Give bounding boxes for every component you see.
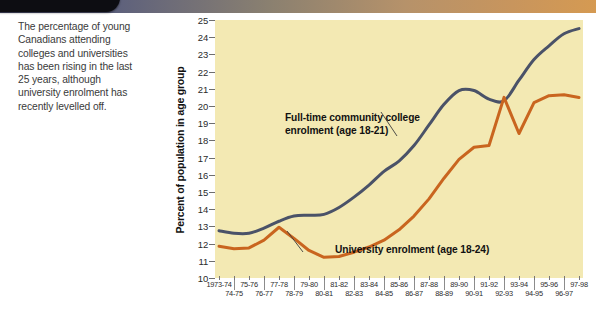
y-tickmark-12	[209, 244, 215, 245]
y-tick-17: 17	[184, 152, 208, 163]
header-tab-shape	[0, 0, 120, 12]
y-tickmark-19	[209, 123, 215, 124]
y-tick-25: 25	[184, 15, 208, 26]
x-tick-top-1973-74: 1973-74	[206, 280, 231, 289]
x-tickmark-86-87	[414, 276, 415, 280]
y-tick-22: 22	[184, 66, 208, 77]
x-tickmark-94-95	[534, 276, 535, 280]
y-tickmark-23	[209, 54, 215, 55]
x-tickmark-84-85	[384, 276, 385, 280]
x-tick-top-89-90: 89-90	[450, 280, 467, 289]
caption-text: The percentage of young Canadians attend…	[18, 20, 144, 113]
x-tickmark-82-83	[354, 276, 355, 280]
annotation-university: University enrolment (age 18-24)	[335, 244, 489, 257]
x-tickmark-78-79	[294, 276, 295, 280]
y-tickmark-10	[209, 278, 215, 279]
x-tickmark-91-92	[489, 276, 490, 280]
y-axis-tick-labels: 25242322212019181716151413121110	[184, 20, 208, 278]
x-tickmark-96-97	[564, 276, 565, 280]
y-tickmark-24	[209, 37, 215, 38]
x-tickmark-1973-74	[219, 276, 220, 280]
x-tickmark-81-82	[339, 276, 340, 280]
x-tick-top-91-92: 91-92	[480, 280, 497, 289]
y-tick-18: 18	[184, 135, 208, 146]
x-tickmark-74-75	[234, 276, 235, 280]
x-tick-top-87-88: 87-88	[420, 280, 437, 289]
x-tick-top-79-80: 79-80	[300, 280, 317, 289]
x-tick-bottom-82-83: 82-83	[345, 289, 362, 298]
y-tickmark-21	[209, 89, 215, 90]
x-axis-row-bottom: 74-7576-7778-7980-8182-8384-8586-8788-89…	[215, 289, 583, 300]
y-tick-14: 14	[184, 204, 208, 215]
x-tick-bottom-92-93: 92-93	[495, 289, 512, 298]
annotation-university-line1: University enrolment (age 18-24)	[335, 244, 489, 257]
y-tick-11: 11	[184, 255, 208, 266]
x-tick-bottom-78-79: 78-79	[285, 289, 302, 298]
y-tick-23: 23	[184, 49, 208, 60]
x-tick-top-85-86: 85-86	[390, 280, 407, 289]
y-tickmark-13	[209, 226, 215, 227]
x-tick-top-75-76: 75-76	[240, 280, 257, 289]
x-tick-top-81-82: 81-82	[330, 280, 347, 289]
x-tick-bottom-76-77: 76-77	[255, 289, 272, 298]
y-tick-12: 12	[184, 238, 208, 249]
y-tick-15: 15	[184, 187, 208, 198]
y-tickmark-20	[209, 106, 215, 107]
annotation-college: Full-time community college enrolment (a…	[285, 112, 420, 137]
plot-svg	[215, 20, 583, 278]
x-tick-top-95-96: 95-96	[540, 280, 557, 289]
x-tickmark-88-89	[444, 276, 445, 280]
x-tickmark-92-93	[504, 276, 505, 280]
y-tick-19: 19	[184, 118, 208, 129]
x-tickmark-80-81	[324, 276, 325, 280]
x-tick-bottom-88-89: 88-89	[435, 289, 452, 298]
x-tick-top-77-78: 77-78	[270, 280, 287, 289]
y-tick-21: 21	[184, 83, 208, 94]
y-tick-20: 20	[184, 101, 208, 112]
x-tickmark-87-88	[429, 276, 430, 280]
x-tick-top-83-84: 83-84	[360, 280, 377, 289]
y-tickmark-11	[209, 261, 215, 262]
x-tick-bottom-84-85: 84-85	[375, 289, 392, 298]
y-tickmark-17	[209, 158, 215, 159]
annotation-college-line1: Full-time community college	[285, 112, 420, 125]
y-tickmark-14	[209, 209, 215, 210]
y-tick-13: 13	[184, 221, 208, 232]
x-tickmark-89-90	[459, 276, 460, 280]
y-tickmark-16	[209, 175, 215, 176]
x-tick-top-93-94: 93-94	[510, 280, 527, 289]
x-tickmark-76-77	[264, 276, 265, 280]
y-tick-16: 16	[184, 169, 208, 180]
x-tickmark-93-94	[519, 276, 520, 280]
x-tick-bottom-90-91: 90-91	[465, 289, 482, 298]
y-tickmark-22	[209, 72, 215, 73]
y-tickmark-25	[209, 20, 215, 21]
x-tick-bottom-86-87: 86-87	[405, 289, 422, 298]
x-tickmark-75-76	[249, 276, 250, 280]
x-axis-labels: 1973-7475-7677-7879-8081-8283-8485-8687-…	[215, 280, 583, 310]
x-tick-bottom-94-95: 94-95	[525, 289, 542, 298]
y-tick-10: 10	[184, 273, 208, 284]
x-tickmark-85-86	[399, 276, 400, 280]
annotation-college-line2: enrolment (age 18-21)	[285, 125, 420, 138]
x-tickmark-79-80	[309, 276, 310, 280]
x-tickmark-95-96	[549, 276, 550, 280]
plot-area: Full-time community college enrolment (a…	[215, 20, 583, 278]
chart-container: Percent of population in age group 25242…	[160, 14, 596, 310]
x-tickmark-90-91	[474, 276, 475, 280]
x-tick-bottom-80-81: 80-81	[315, 289, 332, 298]
x-tickmark-77-78	[279, 276, 280, 280]
x-tick-bottom-96-97: 96-97	[555, 289, 572, 298]
x-tick-bottom-74-75: 74-75	[225, 289, 242, 298]
y-tickmark-18	[209, 140, 215, 141]
x-tick-top-97-98: 97-98	[570, 280, 587, 289]
x-tickmark-83-84	[369, 276, 370, 280]
leader-line-university	[287, 231, 303, 252]
x-tickmark-97-98	[579, 276, 580, 280]
y-tick-24: 24	[184, 32, 208, 43]
y-tickmark-15	[209, 192, 215, 193]
